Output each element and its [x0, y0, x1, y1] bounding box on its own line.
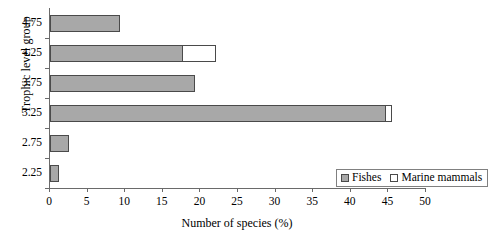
y-axis-tick-label: 4.75	[22, 17, 42, 29]
y-axis-tick	[45, 158, 49, 159]
legend-swatch-marine-mammals-icon	[390, 174, 398, 182]
y-axis-tick	[45, 98, 49, 99]
x-axis-tick-label: 30	[269, 196, 281, 208]
bar-group	[50, 45, 216, 62]
x-axis-tick	[87, 188, 88, 192]
bar-segment-fishes	[50, 165, 59, 182]
x-axis-tick-label: 10	[118, 196, 130, 208]
y-axis-tick-label: 3.25	[22, 107, 42, 119]
plot-area: 4.754.253.753.252.752.25 051015202530354…	[49, 8, 425, 188]
legend-swatch-fishes-icon	[341, 174, 349, 182]
x-axis-title: Number of species (%)	[49, 216, 425, 231]
bar-group	[50, 105, 392, 122]
x-axis-tick	[350, 188, 351, 192]
y-axis-tick	[45, 68, 49, 69]
x-axis-tick-label: 50	[419, 196, 431, 208]
bar-group	[50, 75, 195, 92]
legend-label-fishes: Fishes	[352, 172, 381, 184]
bar-segment-fishes	[50, 75, 195, 92]
x-axis-tick	[425, 188, 426, 192]
x-axis-tick-label: 0	[46, 196, 52, 208]
x-axis-tick	[162, 188, 163, 192]
legend-item-fishes: Fishes	[341, 172, 381, 184]
legend-label-marine-mammals: Marine mammals	[401, 172, 482, 184]
bar-segment-marine-mammals	[182, 45, 216, 62]
x-axis-tick-label: 20	[194, 196, 206, 208]
bar-segment-fishes	[50, 135, 69, 152]
x-axis-tick-label: 45	[382, 196, 394, 208]
bar-segment-marine-mammals	[385, 105, 392, 122]
legend-item-marine-mammals: Marine mammals	[390, 172, 482, 184]
x-axis-tick	[387, 188, 388, 192]
y-axis-tick	[45, 38, 49, 39]
bar-segment-fishes	[50, 105, 386, 122]
x-axis-tick	[124, 188, 125, 192]
bar-segment-fishes	[50, 15, 120, 32]
y-axis-line	[49, 8, 50, 188]
x-axis-tick	[312, 188, 313, 192]
bar-group	[50, 165, 59, 182]
x-axis-tick-label: 15	[156, 196, 168, 208]
x-axis-tick	[275, 188, 276, 192]
y-axis-tick-label: 2.75	[22, 137, 42, 149]
x-axis-tick-label: 35	[306, 196, 318, 208]
x-axis-tick-label: 40	[344, 196, 356, 208]
bar-group	[50, 15, 120, 32]
y-axis-tick-label: 3.75	[22, 77, 42, 89]
y-axis-tick-label: 4.25	[22, 47, 42, 59]
chart-legend: Fishes Marine mammals	[336, 169, 488, 187]
x-axis-tick-label: 25	[231, 196, 243, 208]
bar-group	[50, 135, 69, 152]
x-axis-tick	[237, 188, 238, 192]
bar-segment-fishes	[50, 45, 183, 62]
x-axis-tick-label: 5	[84, 196, 90, 208]
x-axis-tick	[49, 188, 50, 192]
y-axis-tick	[45, 128, 49, 129]
y-axis-tick-label: 2.25	[22, 167, 42, 179]
x-axis-tick	[199, 188, 200, 192]
